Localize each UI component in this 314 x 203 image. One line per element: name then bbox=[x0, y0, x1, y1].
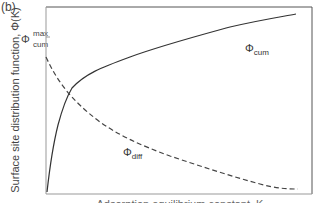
phi-diff-annotation: Φdiff bbox=[123, 146, 142, 161]
phi-cum-sub: cum bbox=[254, 48, 269, 57]
plot-area bbox=[0, 0, 314, 203]
phi-cum-symbol: Φ bbox=[245, 42, 254, 54]
phi-diff-symbol: Φ bbox=[123, 146, 132, 158]
phi-cum-curve bbox=[47, 14, 296, 192]
phi-diff-sub: diff bbox=[132, 152, 143, 161]
phi-cum-annotation: Φcum bbox=[245, 42, 269, 57]
x-axis-label: Adsorption equilibrium constant, K bbox=[97, 198, 264, 203]
phi-diff-curve bbox=[46, 57, 298, 189]
